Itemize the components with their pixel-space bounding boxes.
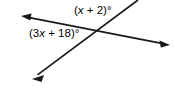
- degree-symbol-upper: °: [107, 4, 112, 16]
- degree-symbol-lower: °: [75, 27, 80, 39]
- shallow-line-arrowhead-left: [21, 14, 32, 21]
- angle-label-upper-operator: +: [84, 4, 97, 16]
- angle-label-lower-operator: +: [45, 27, 58, 39]
- geometry-figure: (x + 2)° (3x + 18)°: [0, 0, 175, 89]
- angle-label-lower: (3x + 18)°: [29, 28, 79, 40]
- angle-label-lower-constant: 18: [58, 27, 71, 39]
- angle-label-upper: (x + 2)°: [74, 5, 112, 17]
- shallow-line-arrowhead-right: [160, 41, 171, 48]
- steep-line-arrowhead-lower-left: [32, 75, 44, 82]
